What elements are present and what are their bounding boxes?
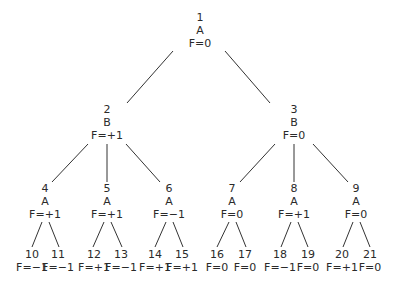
node-id: 18 [264,248,296,261]
node-value: F=0 [297,261,320,274]
node-id: 9 [345,182,368,195]
tree-node-19: 19F=0 [297,248,320,274]
node-value: F=−1 [264,261,296,274]
node-id: 6 [153,182,185,195]
edge-2-6 [126,144,160,182]
tree-node-7: 7AF=0 [221,182,244,221]
node-value: F=−1 [42,261,74,274]
node-id: 5 [91,182,123,195]
tree-node-18: 18F=−1 [264,248,296,274]
edge-9-20 [343,222,353,247]
node-id: 8 [278,182,310,195]
tree-node-9: 9AF=0 [345,182,368,221]
tree-node-15: 15F=+1 [166,248,198,274]
edge-7-17 [236,222,246,247]
node-value: F=−1 [153,208,185,221]
edge-8-18 [281,222,291,247]
node-player: A [29,195,61,208]
node-id: 2 [91,103,123,116]
node-value: F=+1 [278,208,310,221]
node-id: 15 [166,248,198,261]
node-id: 4 [29,182,61,195]
tree-node-8: 8AF=+1 [278,182,310,221]
node-value: F=+1 [91,129,123,142]
tree-node-17: 17F=0 [234,248,257,274]
node-id: 7 [221,182,244,195]
node-id: 17 [234,248,257,261]
node-value: F=+1 [166,261,198,274]
node-id: 19 [297,248,320,261]
node-player: A [91,195,123,208]
node-value: F=0 [283,129,306,142]
edge-5-13 [111,222,122,247]
tree-node-16: 16F=0 [206,248,229,274]
tree-node-21: 21F=0 [359,248,382,274]
node-value: F=0 [206,261,229,274]
edge-9-21 [360,222,370,247]
tree-node-2: 2BF=+1 [91,103,123,142]
edge-6-15 [173,222,183,247]
node-id: 20 [326,248,358,261]
tree-node-11: 11F=−1 [42,248,74,274]
node-id: 16 [206,248,229,261]
edge-3-9 [313,144,348,182]
node-player: A [221,195,244,208]
edge-7-16 [217,222,229,247]
edge-1-2 [127,51,173,103]
node-value: F=+1 [29,208,61,221]
node-id: 3 [283,103,306,116]
tree-node-5: 5AF=+1 [91,182,123,221]
tree-node-6: 6AF=−1 [153,182,185,221]
edge-4-11 [49,222,59,247]
edge-8-19 [298,222,308,247]
node-value: F=0 [234,261,257,274]
edge-2-4 [52,144,88,182]
node-value: F=−1 [105,261,137,274]
edge-3-7 [240,144,275,182]
edge-6-14 [155,222,166,247]
tree-node-3: 3BF=0 [283,103,306,142]
node-value: F=0 [359,261,382,274]
edge-1-3 [225,51,270,103]
node-id: 11 [42,248,74,261]
tree-node-20: 20F=+1 [326,248,358,274]
tree-node-1: 1AF=0 [189,11,212,50]
node-player: A [153,195,185,208]
node-id: 21 [359,248,382,261]
node-value: F=0 [221,208,244,221]
node-player: B [91,116,123,129]
node-player: A [278,195,310,208]
edge-4-10 [32,222,42,247]
tree-node-13: 13F=−1 [105,248,137,274]
node-value: F=0 [345,208,368,221]
node-value: F=0 [189,37,212,50]
tree-node-4: 4AF=+1 [29,182,61,221]
node-player: B [283,116,306,129]
node-id: 1 [189,11,212,24]
node-id: 13 [105,248,137,261]
node-player: A [345,195,368,208]
edge-5-12 [93,222,104,247]
node-value: F=+1 [326,261,358,274]
node-value: F=+1 [91,208,123,221]
node-player: A [189,24,212,37]
